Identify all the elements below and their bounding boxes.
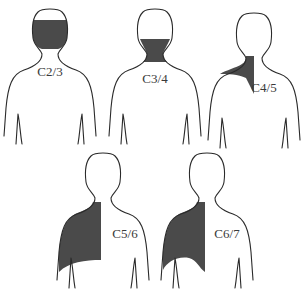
panel-label: C6/7 [214,226,240,241]
panel-label: C2/3 [37,64,62,79]
panel-c3-4: C3/4 [109,9,201,144]
panel-c2-3: C2/3 [4,9,96,144]
panel-label: C4/5 [251,80,276,95]
panel-label: C5/6 [112,226,138,241]
shaded-region-occipital [33,20,67,49]
panel-c4-5: C4/5 [208,13,300,148]
panel-label: C3/4 [142,71,168,86]
panel-c6-7: C6/7 [161,153,253,288]
panel-c5-6: C5/6 [57,153,149,288]
dermatome-diagram: C2/3 C3/4 C4/5 C5/6 C6/7 [0,0,304,290]
